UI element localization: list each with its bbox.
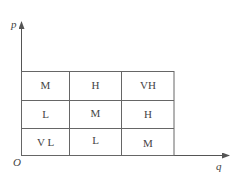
cell-r2-c0: V L <box>22 136 69 148</box>
x-axis-label: q <box>216 160 222 172</box>
cell-r2-c1: L <box>70 134 121 146</box>
origin-label: O <box>13 156 21 168</box>
cell-r1-c2: H <box>122 108 174 120</box>
cell-r1-c0: L <box>22 108 69 120</box>
cell-r0-c0: M <box>22 79 69 91</box>
cell-r0-c2: VH <box>122 79 174 91</box>
cell-r2-c2: M <box>122 137 174 149</box>
y-axis-label: p <box>11 18 17 30</box>
cell-r0-c1: H <box>70 79 121 91</box>
cell-r1-c1: M <box>70 107 121 119</box>
